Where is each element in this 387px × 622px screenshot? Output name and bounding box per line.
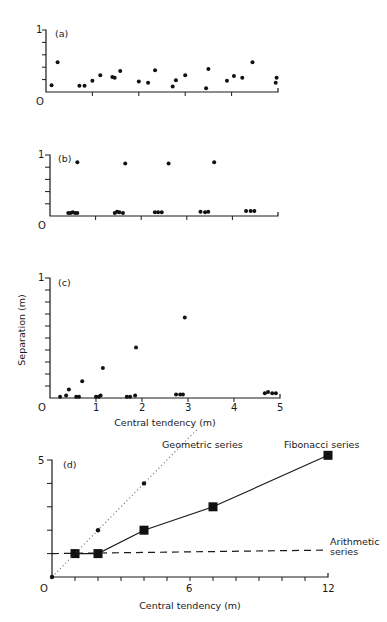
data-point <box>270 391 274 395</box>
figure-canvas: 1 O (a) 1 O (b) 1 O (c) Separation (m) 1… <box>0 0 387 622</box>
data-point <box>240 76 244 80</box>
panel-c-x-axis-label: Central tendency (m) <box>114 417 216 428</box>
data-point <box>266 390 270 394</box>
data-point <box>67 388 71 392</box>
panel-d-x-axis-label: Central tendency (m) <box>139 600 241 611</box>
data-point <box>128 395 132 399</box>
panel-d-title: (d) <box>63 459 76 470</box>
data-point <box>174 392 178 396</box>
panel-a-points <box>50 60 279 90</box>
panel-b-title: (b) <box>58 153 71 164</box>
data-point <box>167 162 171 166</box>
x-tick-label: 1 <box>93 402 99 413</box>
panel-a-title: (a) <box>55 28 68 39</box>
data-point <box>249 209 253 213</box>
fibonacci-marker <box>324 451 333 460</box>
x-tick-label: 5 <box>277 402 283 413</box>
data-point <box>99 394 103 398</box>
panel-b-axes <box>45 155 278 216</box>
x-tick-label: 3 <box>185 402 191 413</box>
panel-b-points <box>66 160 256 215</box>
data-point <box>171 84 175 88</box>
data-point <box>274 391 278 395</box>
panel-d: 5 O 6 12 (d) Central tendency (m) Geomet… <box>38 430 379 611</box>
data-point <box>75 211 79 215</box>
geometric-series-label: Geometric series <box>162 439 243 450</box>
data-point <box>133 394 137 398</box>
data-point <box>275 76 279 80</box>
panel-b: 1 O (b) <box>38 149 278 231</box>
panel-c: 1 O (c) Separation (m) 12345 Central ten… <box>16 272 283 428</box>
data-point <box>212 160 216 164</box>
panel-c-axes <box>45 278 280 398</box>
panel-a: 1 O (a) <box>36 24 279 107</box>
data-point <box>101 366 105 370</box>
data-point <box>274 81 278 85</box>
data-point <box>118 69 122 73</box>
data-point <box>174 78 178 82</box>
data-point <box>98 73 102 77</box>
data-point <box>123 162 127 166</box>
panel-d-y-top-label: 5 <box>38 455 44 466</box>
x-tick-label: 4 <box>231 402 237 413</box>
data-point <box>206 67 210 71</box>
data-point <box>181 392 185 396</box>
data-point <box>58 395 62 399</box>
data-point <box>252 209 256 213</box>
data-point <box>244 209 248 213</box>
arithmetic-series-label-2: series <box>330 546 358 557</box>
panel-a-origin-label: O <box>36 96 44 107</box>
data-point <box>198 210 202 214</box>
data-point <box>153 68 157 72</box>
data-point <box>117 210 121 214</box>
data-point <box>204 86 208 90</box>
panel-b-origin-label: O <box>38 220 46 231</box>
data-point <box>77 395 81 399</box>
data-point <box>75 160 79 164</box>
data-point <box>77 84 81 88</box>
x-tick-label: 2 <box>139 402 145 413</box>
fibonacci-marker <box>209 502 218 511</box>
data-point <box>225 79 229 83</box>
data-point <box>50 83 54 87</box>
panel-c-origin-label: O <box>38 402 46 413</box>
panel-a-axes <box>42 30 278 92</box>
data-point <box>232 74 236 78</box>
data-point <box>56 60 60 64</box>
panel-d-x-tick-12: 12 <box>322 583 335 594</box>
data-point <box>183 73 187 77</box>
data-point <box>183 316 187 320</box>
panel-c-y-ticks <box>45 290 50 386</box>
fibonacci-series-label: Fibonacci series <box>284 439 359 450</box>
data-point <box>80 379 84 383</box>
geometric-marker <box>142 481 146 485</box>
panel-b-y-ticks <box>45 167 50 204</box>
panel-c-y-top-label: 1 <box>38 272 44 283</box>
panel-c-y-axis-label: Separation (m) <box>16 294 27 365</box>
data-point <box>250 60 254 64</box>
panel-d-axes <box>47 460 328 577</box>
geometric-marker <box>96 528 100 532</box>
data-point <box>160 210 164 214</box>
data-point <box>113 76 117 80</box>
data-point <box>156 210 160 214</box>
panel-c-x-tick-labels: 12345 <box>93 402 283 413</box>
panel-d-series <box>50 430 333 580</box>
panel-c-points <box>58 316 278 399</box>
data-point <box>121 211 125 215</box>
data-point <box>64 394 68 398</box>
data-point <box>90 79 94 83</box>
panel-c-title: (c) <box>58 277 71 288</box>
arithmetic-series-line <box>52 550 328 554</box>
panel-a-y-top-label: 1 <box>36 24 42 35</box>
fibonacci-series-line <box>75 455 328 553</box>
geometric-marker <box>50 575 54 579</box>
panel-d-origin-label: O <box>40 583 48 594</box>
data-point <box>206 210 210 214</box>
data-point <box>146 81 150 85</box>
panel-b-y-top-label: 1 <box>38 149 44 160</box>
data-point <box>83 84 87 88</box>
panel-d-x-tick-6: 6 <box>186 583 192 594</box>
fibonacci-marker <box>140 526 149 535</box>
panel-d-y-ticks <box>47 483 52 553</box>
